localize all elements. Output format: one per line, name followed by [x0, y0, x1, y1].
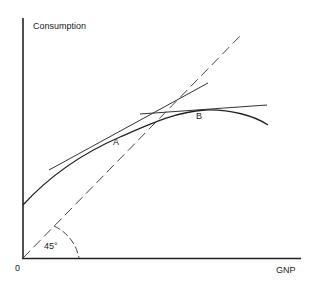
forty-five-degree-line	[23, 33, 243, 258]
origin-label: 0	[15, 264, 20, 273]
consumption-curve	[23, 110, 268, 205]
point-b-label: B	[196, 112, 202, 121]
angle-label: 45°	[44, 242, 58, 251]
y-axis-label: Consumption	[33, 22, 86, 31]
point-a-label: A	[113, 138, 119, 147]
x-axis-label: GNP	[276, 266, 296, 275]
tangent-line-a	[49, 83, 208, 170]
